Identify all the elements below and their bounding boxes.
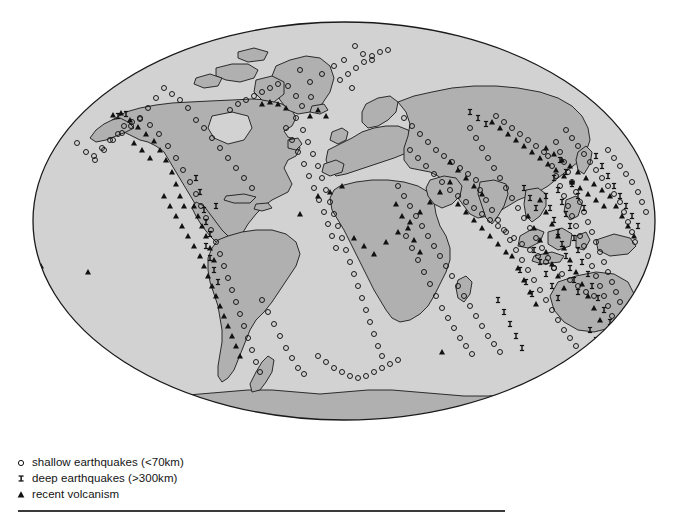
map-legend: shallow earthquakes (<70km) deep earthqu…	[16, 455, 336, 503]
i-bar-icon	[16, 471, 32, 486]
land-antarctica	[16, 390, 660, 440]
legend-item-deep-earthquakes: deep earthquakes (>300km)	[16, 471, 336, 486]
map-marker-filled-triangle	[33, 273, 39, 279]
figure-divider-rule	[18, 510, 505, 512]
world-seismicity-figure: shallow earthquakes (<70km) deep earthqu…	[0, 0, 680, 525]
land-cuba	[224, 194, 256, 203]
land-new-zealand	[644, 316, 658, 334]
map-marker-open-circle	[626, 320, 631, 325]
open-circle-icon	[16, 455, 32, 470]
map-marker-open-circle	[590, 354, 595, 359]
world-map[interactable]	[0, 0, 680, 440]
map-marker-open-circle	[582, 350, 587, 355]
filled-triangle-icon	[16, 487, 32, 502]
map-marker-open-circle	[630, 328, 635, 333]
map-marker-i-bar	[606, 353, 610, 359]
legend-label-deep-earthquakes: deep earthquakes (>300km)	[32, 471, 177, 486]
map-marker-filled-triangle	[609, 341, 615, 347]
legend-label-recent-volcanism: recent volcanism	[32, 487, 119, 502]
legend-label-shallow-earthquakes: shallow earthquakes (<70km)	[32, 455, 184, 470]
legend-item-recent-volcanism: recent volcanism	[16, 487, 336, 502]
map-marker-open-circle	[614, 324, 619, 329]
legend-item-shallow-earthquakes: shallow earthquakes (<70km)	[16, 455, 336, 470]
map-marker-open-circle	[618, 334, 623, 339]
map-marker-i-bar	[600, 345, 604, 351]
map-marker-open-circle	[596, 358, 601, 363]
